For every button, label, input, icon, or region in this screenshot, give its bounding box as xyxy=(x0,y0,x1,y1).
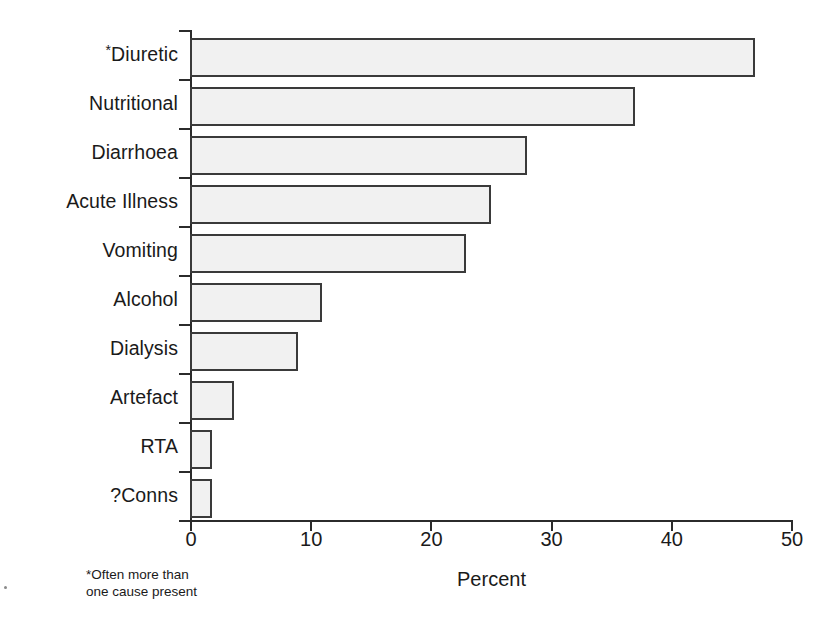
y-axis-tick xyxy=(179,275,190,277)
bar xyxy=(190,234,466,273)
y-axis-tick xyxy=(179,226,190,228)
horizontal-bar-chart: *Diuretic Nutritional Diarrhoea Acute Il… xyxy=(0,0,835,624)
x-axis-tick-label: 30 xyxy=(540,528,562,551)
category-label-artefact: Artefact xyxy=(110,373,178,422)
x-axis-title: Percent xyxy=(190,568,793,591)
category-label-diuretic: *Diuretic xyxy=(106,30,178,79)
x-axis-tick-label: 50 xyxy=(781,528,803,551)
plot-area xyxy=(190,30,800,520)
category-label-diarrhoea: Diarrhoea xyxy=(91,128,178,177)
x-axis-tick-label: 10 xyxy=(300,528,322,551)
y-axis-tick xyxy=(179,128,190,130)
x-axis-tick-label: 0 xyxy=(185,528,196,551)
category-label-nutritional: Nutritional xyxy=(89,79,178,128)
y-axis-tick xyxy=(179,422,190,424)
y-axis-tick xyxy=(179,324,190,326)
bar xyxy=(190,479,212,518)
category-label-rta: RTA xyxy=(140,422,178,471)
y-axis-tick xyxy=(179,520,190,522)
y-axis-tick xyxy=(179,373,190,375)
category-label-acute-illness: Acute Illness xyxy=(66,177,178,226)
x-axis-line xyxy=(190,520,793,522)
category-label-alcohol: Alcohol xyxy=(113,275,178,324)
bar xyxy=(190,430,212,469)
y-axis-tick xyxy=(179,471,190,473)
chart-footnote: *Often more than one cause present xyxy=(86,566,197,600)
category-label-conns: ?Conns xyxy=(110,471,178,520)
bar xyxy=(190,38,755,77)
category-axis-labels: *Diuretic Nutritional Diarrhoea Acute Il… xyxy=(0,30,178,520)
y-axis-tick xyxy=(179,79,190,81)
category-label-dialysis: Dialysis xyxy=(110,324,178,373)
page-edge-speck xyxy=(4,586,7,589)
category-label-text: Diuretic xyxy=(111,43,178,65)
y-axis-tick xyxy=(179,177,190,179)
bar xyxy=(190,381,234,420)
bar xyxy=(190,283,322,322)
bar xyxy=(190,332,298,371)
bar xyxy=(190,87,635,126)
x-axis-tick-labels: 01020304050 xyxy=(190,528,830,556)
bar xyxy=(190,185,491,224)
x-axis-tick-label: 20 xyxy=(420,528,442,551)
bar xyxy=(190,136,527,175)
y-axis-tick xyxy=(179,30,190,32)
x-axis-tick-label: 40 xyxy=(661,528,683,551)
category-label-vomiting: Vomiting xyxy=(102,226,178,275)
